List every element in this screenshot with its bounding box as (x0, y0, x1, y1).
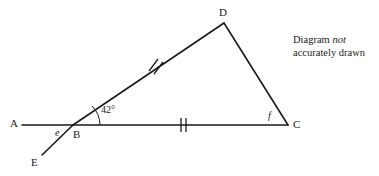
vertex-label-A: A (10, 118, 18, 129)
vertex-label-B: B (73, 129, 80, 140)
vertex-label-C: C (293, 119, 300, 130)
diagram-note: Diagram not accurately drawn (293, 33, 377, 59)
angle-label-f: f (268, 111, 271, 121)
geometry-diagram: A B C D E 42° e f Diagram not accurately… (0, 0, 379, 176)
geometry-svg (0, 0, 379, 176)
note-line1-prefix: Diagram (293, 34, 332, 45)
angle-label-42-degrees: 42° (101, 105, 115, 115)
vertex-label-D: D (219, 7, 227, 18)
vertex-label-E: E (31, 157, 38, 168)
segment-D-C (224, 23, 288, 125)
note-line2: accurately drawn (293, 47, 365, 58)
angle-label-e: e (55, 128, 59, 138)
note-line1-italic: not (332, 34, 345, 45)
